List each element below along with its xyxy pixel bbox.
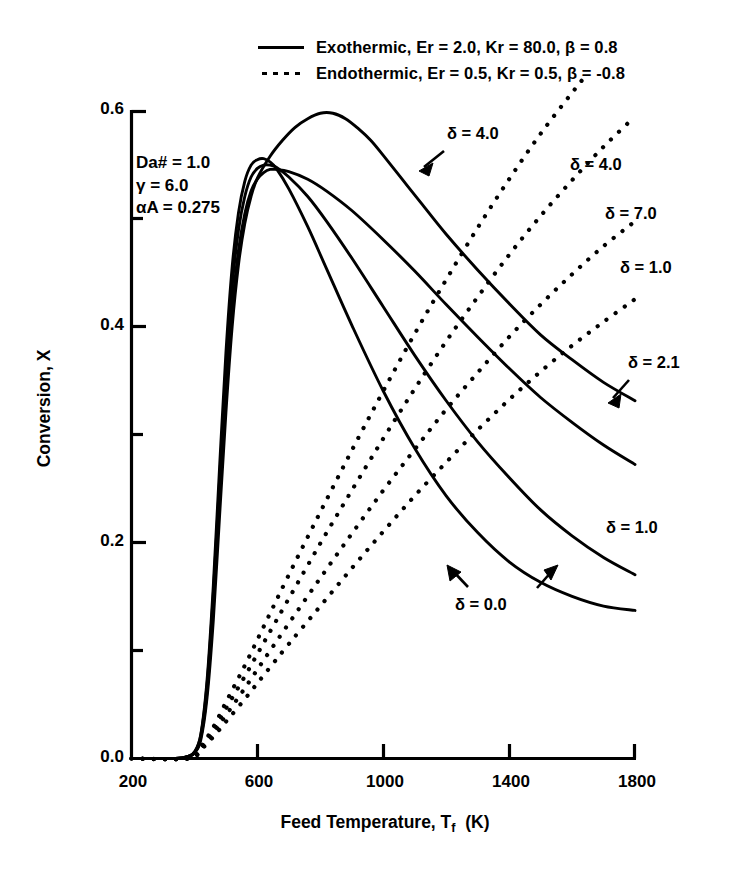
arrow-to-exothermic-delta-4.0 [419,151,444,176]
arrow-to-endothermic-delta-0.0 [447,565,468,587]
data-curves [132,73,636,759]
annotation-arrows [419,151,629,588]
x-axis-ticks [258,744,510,759]
axis-end-caps [132,112,635,759]
curve-exothermic-delta-1.0 [132,165,636,759]
figure-chart: Exothermic, Er = 2.0, Kr = 80.0, β = 0.8… [0,0,734,883]
plot-canvas [0,0,734,883]
curve-endothermic-delta-4.0 [132,73,588,759]
y-axis-ticks [132,219,147,651]
